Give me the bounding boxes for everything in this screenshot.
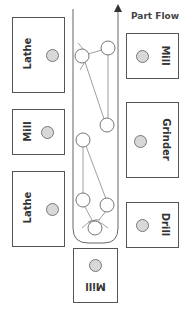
- machine-label: Grinder: [161, 110, 172, 170]
- station-dot-icon: [46, 49, 59, 62]
- station-dot-icon: [136, 219, 149, 232]
- part-flow-label: Part Flow: [131, 11, 179, 21]
- machine-label: Mill: [74, 281, 117, 292]
- station-dot-icon: [41, 126, 54, 139]
- machine-label: Lathe: [22, 34, 33, 74]
- flow-arrow-icon: [114, 4, 122, 12]
- machine-label: Lathe: [22, 188, 33, 228]
- machine-mill-1: Mill: [12, 109, 65, 155]
- machine-drill: Drill: [126, 202, 179, 248]
- machine-mill-3: Mill: [73, 248, 118, 303]
- machine-mill-2: Mill: [126, 33, 179, 79]
- machine-label: Mill: [160, 36, 171, 76]
- station-dot-icon: [136, 50, 149, 63]
- machine-lathe-2: Lathe: [12, 171, 65, 247]
- station-dot-icon: [46, 203, 59, 216]
- station-dot-icon: [89, 259, 102, 272]
- machine-grinder: Grinder: [126, 102, 179, 178]
- machine-lathe-1: Lathe: [12, 17, 65, 93]
- machine-label: Mill: [22, 112, 33, 152]
- part-stations: [75, 41, 115, 235]
- station-dot-icon: [134, 135, 147, 148]
- machine-label: Drill: [160, 205, 171, 245]
